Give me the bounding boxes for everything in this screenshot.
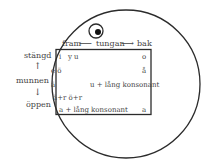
vowel-row2-front: e ö (51, 67, 62, 75)
label-open: öppen (26, 101, 51, 109)
arrow-right-icon: ⟶ (121, 39, 134, 47)
vowel-row5-back: a (142, 106, 146, 114)
vowel-row1-front: i y u (59, 53, 79, 61)
arrow-up-icon: ↑ (34, 62, 42, 70)
eye-pupil (95, 29, 101, 35)
label-mouth: munnen (16, 77, 49, 85)
vowel-row1-back: o (142, 53, 146, 61)
arrow-left-icon: ⟵ (79, 39, 92, 47)
vowel-row2-back: å (142, 67, 146, 75)
arrow-down-icon: ↓ (34, 88, 42, 96)
label-closed: stängd (24, 52, 51, 60)
vowel-row3-front: ä (51, 81, 55, 89)
label-back: bak (137, 40, 152, 48)
vowel-row4-front: ä+r ö+r (53, 94, 82, 102)
vowel-row3-back: u + lång konsonant (90, 81, 159, 89)
vowel-row5-front: a + lång konsonant (59, 106, 128, 114)
